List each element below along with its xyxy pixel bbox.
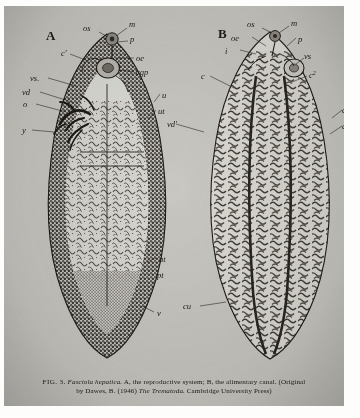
label-a-os: os — [83, 23, 91, 33]
caption-credit-publisher: Cambridge University Press) — [187, 387, 272, 395]
label-b-vd-prime: vd' — [167, 119, 177, 129]
label-a-o: o — [23, 99, 28, 109]
label-a-c1: c' — [61, 48, 67, 58]
label-b-os: os — [247, 19, 255, 29]
label-a-pt: pt — [156, 270, 164, 280]
label-a-v: v — [157, 308, 161, 318]
label-b-p: p — [297, 34, 303, 44]
figure-artwork: A os m p oe cgp c' vs. vd o y u ut at pt… — [4, 6, 344, 372]
label-b-cu: cu — [183, 301, 191, 311]
label-a-u: u — [162, 90, 166, 100]
label-b-oe: oe — [231, 33, 239, 43]
label-a-m: m — [129, 19, 135, 29]
caption-part-b: B, the alimentary canal. — [207, 378, 277, 386]
caption-fig-number: FIG. 3. — [43, 378, 66, 386]
label-a-p: p — [129, 34, 135, 44]
label-a-at: at — [159, 254, 166, 264]
caption-part-a: A, the reproductive system; — [124, 378, 205, 386]
caption-credit-author: by Dawes, B. (1946) — [76, 387, 137, 395]
label-b-c1-right: c1 — [342, 121, 344, 131]
label-a-oe: oe — [136, 53, 144, 63]
label-b-c-right: c — [342, 105, 344, 115]
label-b-c2: c2 — [309, 70, 316, 80]
caption-credit-work: The Trematoda. — [139, 387, 185, 395]
label-b-c: c — [201, 71, 205, 81]
anatomical-illustration: A os m p oe cgp c' vs. vd o y u ut at pt… — [4, 6, 344, 372]
label-b-m: m — [291, 18, 297, 28]
label-a-vs: vs. — [30, 73, 39, 83]
label-a-vd: vd — [22, 87, 31, 97]
label-a-y: y — [21, 125, 26, 135]
label-b-vs: vs — [304, 51, 312, 61]
panel-a-illustration: A os m p oe cgp c' vs. vd o y u ut at pt… — [21, 19, 184, 371]
caption-credit-open: (Original — [279, 378, 306, 386]
panel-a-letter: A — [46, 28, 56, 43]
label-b-i: i — [225, 46, 228, 56]
caption-species: Fasciola hepatica. — [68, 378, 123, 386]
label-a-cgp: cgp — [136, 67, 149, 77]
figure-caption: FIG. 3. Fasciola hepatica. A, the reprod… — [4, 378, 344, 397]
figure-plate: A os m p oe cgp c' vs. vd o y u ut at pt… — [4, 6, 344, 406]
page-background: A os m p oe cgp c' vs. vd o y u ut at pt… — [0, 0, 360, 418]
panel-b-illustration: B os m oe p i vs c2 c c c1 vd' cu — [167, 18, 344, 372]
panel-b-letter: B — [218, 26, 227, 41]
label-a-ut: ut — [158, 106, 165, 116]
